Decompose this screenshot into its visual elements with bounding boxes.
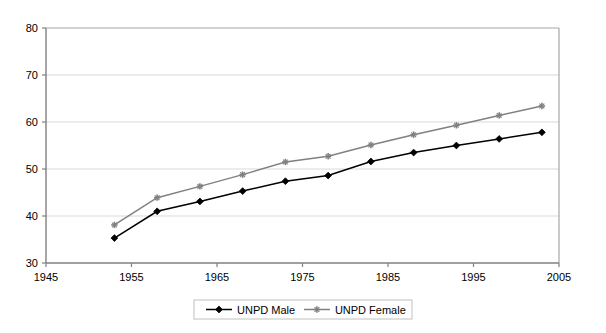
legend-label: UNPD Female [335,304,406,316]
data-point-marker [325,153,331,159]
y-axis-tick-label: 70 [26,69,38,81]
data-point-marker [239,171,245,177]
x-axis-tick-label: 1965 [205,271,229,283]
x-axis-tick-label: 1975 [290,271,314,283]
plot-area-background [46,28,559,263]
data-point-marker [410,131,416,137]
data-point-marker [197,183,203,189]
y-axis-tick-label: 50 [26,163,38,175]
y-axis-tick-label: 60 [26,116,38,128]
data-point-marker [539,103,545,109]
chart-container: 304050607080 194519551965197519851995200… [0,0,606,333]
data-point-marker [496,112,502,118]
x-axis-tick-label: 1945 [34,271,58,283]
x-axis-tick-label: 1955 [119,271,143,283]
y-axis-tick-label: 30 [26,257,38,269]
data-point-marker [282,159,288,165]
y-axis-tick-label: 80 [26,22,38,34]
data-point-marker [453,122,459,128]
x-axis-tick-label: 2005 [547,271,571,283]
legend-label: UNPD Male [237,304,295,316]
x-axis-tick-label: 1995 [461,271,485,283]
data-point-marker [154,194,160,200]
data-point-marker [314,306,320,312]
data-point-marker [111,222,117,228]
chart-legend: UNPD MaleUNPD Female [194,300,412,319]
line-chart: 304050607080 194519551965197519851995200… [0,0,606,333]
data-point-marker [368,142,374,148]
x-axis-tick-label: 1985 [376,271,400,283]
y-axis-tick-label: 40 [26,210,38,222]
